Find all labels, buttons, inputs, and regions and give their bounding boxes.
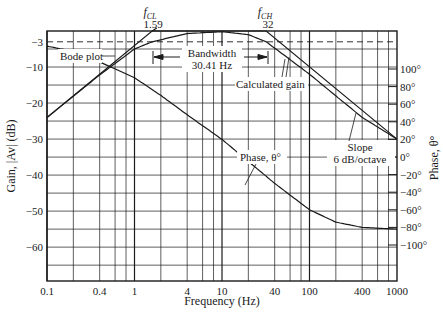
bode-plot-label: Bode plot [60, 50, 103, 62]
y2-tick-label: −60° [400, 204, 422, 216]
y-tick-label: −10 [26, 61, 44, 73]
y-tick-label: −3 [31, 36, 43, 48]
phase-curve-label: Phase, θ° [240, 151, 281, 163]
x-tick-label: 1000 [386, 285, 409, 297]
x-tick-label: 0.4 [93, 285, 107, 297]
bode-chart: 0.10.41410401004001000−3−10−20−30−40−50−… [0, 0, 443, 324]
bandwidth-label: Bandwidth [188, 47, 237, 59]
x-tick-label: 1 [132, 285, 138, 297]
y-tick-label: −20 [26, 97, 44, 109]
y2-tick-label: 40° [400, 116, 415, 128]
y2-tick-label: 20° [400, 133, 415, 145]
bandwidth-value: 30.41 Hz [192, 59, 232, 71]
y2-tick-label: 0° [400, 151, 410, 163]
x-tick-label: 100 [301, 285, 318, 297]
fcl-value: 1.59 [143, 18, 163, 30]
y-tick-label: −60 [26, 241, 44, 253]
x-tick-label: 0.1 [40, 285, 54, 297]
y2-tick-label: −40° [400, 186, 422, 198]
y-tick-label: −40 [26, 169, 44, 181]
y-tick-label: −50 [26, 205, 44, 217]
x-axis-title: Frequency (Hz) [184, 294, 260, 308]
slope-label: Slope [347, 141, 372, 153]
y2-tick-label: 80° [400, 81, 415, 93]
y2-tick-label: −80° [400, 221, 422, 233]
y2-tick-label: −100° [400, 239, 427, 251]
y2-axis-title: Phase, θ° [427, 136, 441, 181]
y2-tick-label: 60° [400, 98, 415, 110]
x-tick-label: 40 [269, 285, 281, 297]
y-axis-title: Gain, |Av| (dB) [4, 120, 18, 193]
fch-value: 32 [263, 18, 274, 30]
y-tick-label: −30 [26, 133, 44, 145]
slope-value: 6 dB/octave [334, 153, 387, 165]
axis-ticks: 0.10.41410401004001000−3−10−20−30−40−50−… [26, 36, 427, 297]
calculated-gain-label: Calculated gain [236, 78, 305, 90]
y2-tick-label: −20° [400, 169, 422, 181]
y2-tick-label: 100° [400, 63, 421, 75]
x-tick-label: 400 [354, 285, 371, 297]
